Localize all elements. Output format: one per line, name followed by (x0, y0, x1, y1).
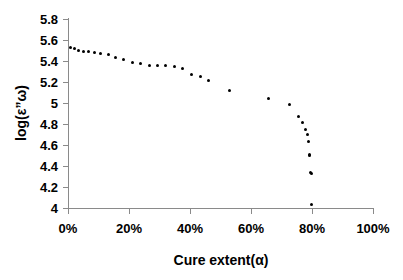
y-axis-title: log(ε”ω) (13, 43, 29, 183)
y-tick-mark (63, 40, 68, 41)
data-point (288, 103, 291, 106)
x-tick-label: 60% (221, 222, 281, 235)
data-point (77, 49, 80, 52)
data-point (69, 46, 72, 49)
x-tick-mark (68, 209, 69, 214)
chart-container: 44.24.44.64.855.25.45.65.8 0%20%40%60%80… (0, 0, 403, 280)
x-tick-label: 100% (343, 222, 403, 235)
data-point (73, 47, 76, 50)
y-tick-label: 4 (14, 202, 58, 215)
y-tick-label: 5.8 (14, 13, 58, 26)
x-axis-line (68, 208, 374, 209)
x-tick-mark (190, 209, 191, 214)
y-tick-mark (63, 19, 68, 20)
y-tick-mark (63, 103, 68, 104)
data-point (310, 172, 313, 175)
y-tick-mark (63, 145, 68, 146)
y-tick-mark (63, 187, 68, 188)
data-point (306, 133, 309, 136)
data-point (139, 62, 142, 65)
y-tick-mark (63, 61, 68, 62)
y-tick-mark (63, 124, 68, 125)
data-point (107, 53, 110, 56)
data-point (304, 128, 307, 131)
x-tick-mark (251, 209, 252, 214)
plot-area (68, 19, 373, 208)
x-tick-mark (129, 209, 130, 214)
data-point (82, 50, 85, 53)
x-tick-label: 0% (38, 222, 98, 235)
data-point (131, 61, 134, 64)
x-tick-label: 40% (160, 222, 220, 235)
x-tick-label: 20% (99, 222, 159, 235)
x-tick-mark (373, 209, 374, 214)
data-point (164, 64, 167, 67)
y-tick-mark (63, 82, 68, 83)
data-point (148, 64, 151, 67)
data-point (173, 65, 176, 68)
y-tick-mark (63, 166, 68, 167)
x-axis-title: Cure extent(α) (68, 252, 374, 268)
x-tick-mark (312, 209, 313, 214)
x-tick-label: 80% (282, 222, 342, 235)
